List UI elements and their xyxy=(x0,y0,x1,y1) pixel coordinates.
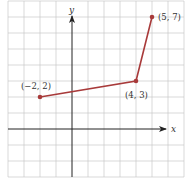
data-point-2 xyxy=(134,79,139,84)
y-axis-label: y xyxy=(68,5,75,15)
point-label-1: (−2, 2) xyxy=(21,81,51,91)
graph-canvas: x y (−2, 2) (4, 3) (5, 7) xyxy=(0,0,196,183)
point-label-3: (5, 7) xyxy=(158,12,181,22)
x-axis-label: x xyxy=(171,124,176,134)
data-point-1 xyxy=(38,95,43,100)
data-point-3 xyxy=(150,15,155,20)
data-line xyxy=(40,17,152,97)
point-label-2: (4, 3) xyxy=(125,90,148,100)
